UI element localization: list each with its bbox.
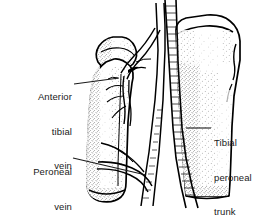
label-line: trunk	[214, 206, 274, 218]
label-line: tibial	[6, 126, 72, 138]
fibula-bone	[86, 59, 133, 204]
label-tibial-peroneal-trunk: Tibial peroneal trunk	[214, 114, 274, 220]
label-line: peroneal	[214, 172, 274, 184]
label-line: Peroneal	[4, 166, 72, 178]
label-line: vein	[4, 201, 72, 213]
label-line: Tibial	[214, 137, 274, 149]
label-peroneal-vein: Peroneal vein	[4, 143, 72, 220]
anatomical-figure: Anterior tibial vein Peroneal vein Tibia…	[0, 0, 275, 220]
label-line: Anterior	[6, 91, 72, 103]
